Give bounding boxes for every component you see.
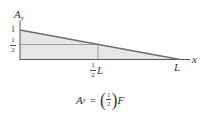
x-tick-half-L-symbol: L [97, 65, 103, 76]
y-tick-half-denominator: 2 [11, 47, 15, 54]
x-tick-half-denominator: 2 [91, 72, 95, 79]
formula-rhs: F [117, 94, 124, 106]
x-tick-half-L: 1 2 L [90, 62, 103, 79]
y-axis-label-main: A [14, 8, 21, 20]
y-tick-one: 1 [11, 26, 15, 34]
formula-open-paren: ( [100, 90, 106, 109]
y-axis-label: Ay [14, 9, 24, 22]
x-tick-half-numerator: 1 [91, 62, 95, 69]
formula-equals: = [90, 94, 96, 106]
formula-fraction-numerator: 1 [107, 92, 110, 98]
y-axis-label-sub: y [21, 14, 24, 22]
formula-fraction: 1 2 [106, 92, 111, 107]
x-tick-half-fraction: 1 2 [90, 62, 96, 79]
formula-lhs-sub: y [83, 96, 86, 104]
x-tick-L: L [174, 62, 180, 73]
formula-fraction-denominator: 2 [107, 101, 110, 107]
y-tick-one-label: 1 [11, 26, 15, 34]
x-tick-L-label: L [174, 61, 180, 73]
formula-lhs: A [76, 94, 83, 106]
x-axis-label: x [192, 54, 197, 65]
fraction-bar [106, 99, 111, 100]
formula-close-paren: ) [112, 90, 118, 109]
influence-line-diagram: Ay 1 1 2 x 1 2 L L Ay = ( 1 2 ) F [0, 0, 209, 125]
y-tick-half: 1 2 [10, 37, 16, 54]
x-axis-label-text: x [192, 53, 197, 65]
y-tick-half-numerator: 1 [11, 37, 15, 44]
reaction-formula: Ay = ( 1 2 ) F [76, 91, 124, 108]
